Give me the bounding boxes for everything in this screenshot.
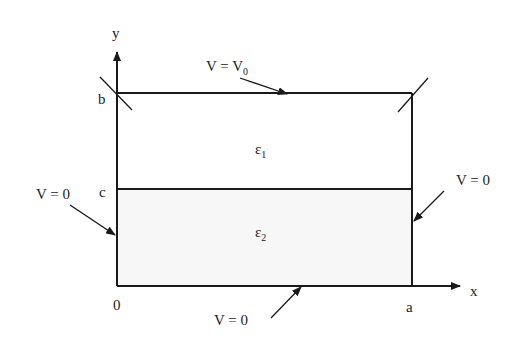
right-boundary-label: V = 0: [456, 172, 490, 188]
bottom-boundary-label: V = 0: [214, 312, 248, 328]
right-label-arrow: [414, 191, 444, 221]
left-boundary-label: V = 0: [36, 186, 70, 202]
bottom-label-arrow: [271, 287, 301, 318]
top-label-arrow: [240, 78, 287, 94]
point-a-label: a: [406, 299, 413, 315]
top-boundary-label: V = V0: [206, 58, 248, 77]
x-axis-label: x: [470, 283, 478, 299]
dielectric-diagram: y x b c 0 a ε1 ε2 V = V0 V = 0 V = 0 V =…: [0, 0, 527, 354]
y-axis-label: y: [112, 25, 120, 41]
eps1-label: ε1: [255, 141, 266, 160]
point-c-label: c: [99, 184, 106, 200]
point-b-label: b: [98, 91, 106, 107]
origin-label: 0: [113, 297, 121, 313]
left-label-arrow: [70, 205, 115, 235]
